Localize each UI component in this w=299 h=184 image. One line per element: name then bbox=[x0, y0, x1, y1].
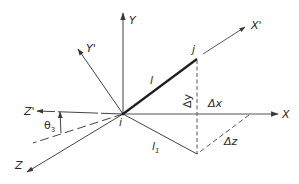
y-axis-label: Y bbox=[129, 14, 137, 27]
end-point-label: j bbox=[190, 43, 196, 56]
origin-label: i bbox=[119, 116, 122, 129]
member-length-label: l bbox=[150, 74, 153, 87]
origin-point bbox=[122, 113, 125, 116]
angle-label: θ3 bbox=[44, 119, 55, 134]
delta-y-label: Δy bbox=[181, 93, 194, 108]
x-prime-axis-label: X' bbox=[250, 19, 262, 32]
z-axis bbox=[27, 114, 123, 172]
x-prime-axis bbox=[203, 27, 245, 54]
z-prime-axis bbox=[37, 111, 123, 114]
delta-z-label: Δz bbox=[223, 135, 238, 148]
z-prime-axis-label: Z' bbox=[23, 105, 35, 118]
delta-x-label: Δx bbox=[207, 97, 223, 110]
x-axis-label: X bbox=[281, 108, 290, 121]
y-prime-axis bbox=[78, 49, 123, 114]
z-axis-label: Z bbox=[14, 159, 23, 172]
projected-length-line bbox=[123, 114, 197, 154]
delta-z-projection bbox=[197, 115, 249, 154]
y-prime-axis-label: Y' bbox=[86, 42, 96, 55]
angle-arc bbox=[60, 112, 61, 133]
coordinate-rotation-diagram: Y Y' X' l j X Δy Δx Δz l1 Z' θ3 Z i bbox=[0, 0, 299, 184]
projected-length-label: l1 bbox=[152, 140, 160, 155]
